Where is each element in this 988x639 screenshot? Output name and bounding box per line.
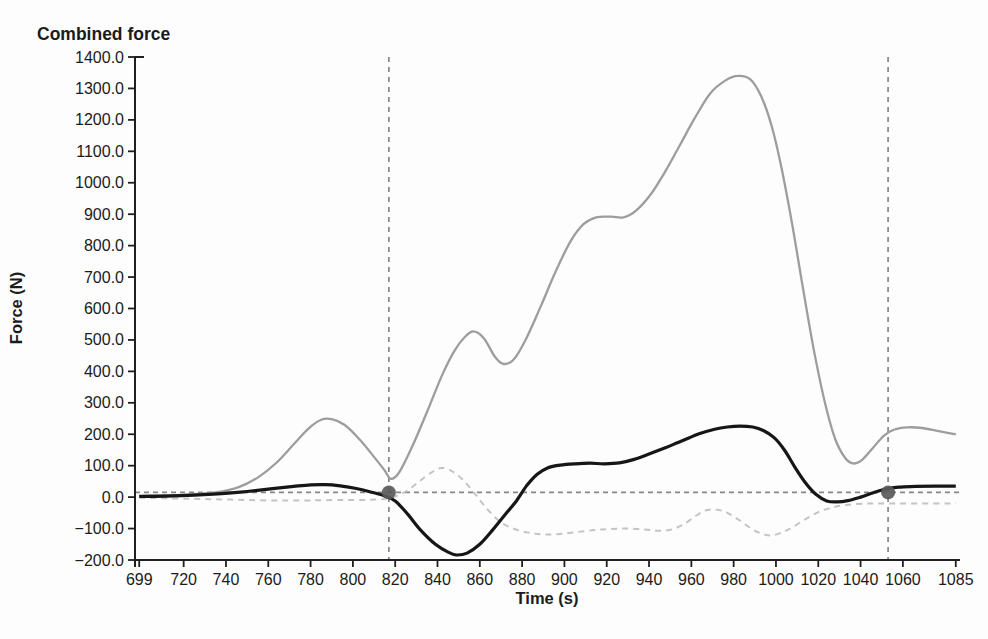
y-tick-label: 500.0 — [84, 331, 124, 348]
x-tick-label: 780 — [297, 571, 324, 588]
y-tick-label: 1200.0 — [75, 111, 124, 128]
x-tick-label: 1040 — [843, 571, 879, 588]
x-tick-label: 920 — [593, 571, 620, 588]
y-tick-label: 600.0 — [84, 300, 124, 317]
y-tick-label: 100.0 — [84, 457, 124, 474]
x-tick-label: 1060 — [885, 571, 921, 588]
x-tick-label: 860 — [466, 571, 493, 588]
x-tick-label: 980 — [720, 571, 747, 588]
marker-dot-2 — [881, 485, 895, 499]
y-tick-label: 700.0 — [84, 269, 124, 286]
x-axis-label: Time (s) — [516, 589, 579, 607]
x-tick-label: 1000 — [758, 571, 794, 588]
y-tick-label: 1300.0 — [75, 80, 124, 97]
x-tick-label: 800 — [340, 571, 367, 588]
x-tick-label: 900 — [551, 571, 578, 588]
x-tick-label: 1020 — [800, 571, 836, 588]
series-black-component — [139, 426, 956, 555]
chart-canvas: Combined force Force (N) Time (s) 1400.0… — [0, 0, 988, 639]
x-tick-label: 880 — [509, 571, 536, 588]
x-tick-label: 960 — [678, 571, 705, 588]
chart-title: Combined force — [37, 24, 170, 44]
x-tick-label: 820 — [382, 571, 409, 588]
marker-dot-1 — [382, 485, 396, 499]
y-tick-label: 300.0 — [84, 394, 124, 411]
x-tick-label: 1085 — [938, 571, 974, 588]
x-tick-label: 760 — [255, 571, 282, 588]
combined-force-chart: Combined force Force (N) Time (s) 1400.0… — [0, 0, 988, 639]
x-tick-label: 840 — [424, 571, 451, 588]
y-tick-label: 1100.0 — [76, 143, 124, 160]
y-tick-label: 900.0 — [84, 206, 124, 223]
y-tick-label: 0.0 — [102, 489, 124, 506]
x-tick-label: 699 — [126, 571, 153, 588]
x-tick-label: 940 — [636, 571, 663, 588]
plot-area: 1400.01300.01200.01100.01000.0900.0800.0… — [75, 49, 974, 589]
series-gray-total-force — [139, 76, 956, 496]
y-axis-label: Force (N) — [7, 272, 25, 344]
y-tick-label: 400.0 — [84, 363, 124, 380]
y-tick-label: 1400.0 — [75, 49, 124, 66]
x-tick-label: 720 — [170, 571, 197, 588]
y-tick-label: −200.0 — [75, 552, 124, 569]
y-tick-label: 800.0 — [84, 237, 124, 254]
y-tick-label: 1000.0 — [75, 174, 124, 191]
x-tick-label: 740 — [213, 571, 240, 588]
y-tick-label: 200.0 — [84, 426, 124, 443]
y-tick-label: −100.0 — [75, 520, 124, 537]
